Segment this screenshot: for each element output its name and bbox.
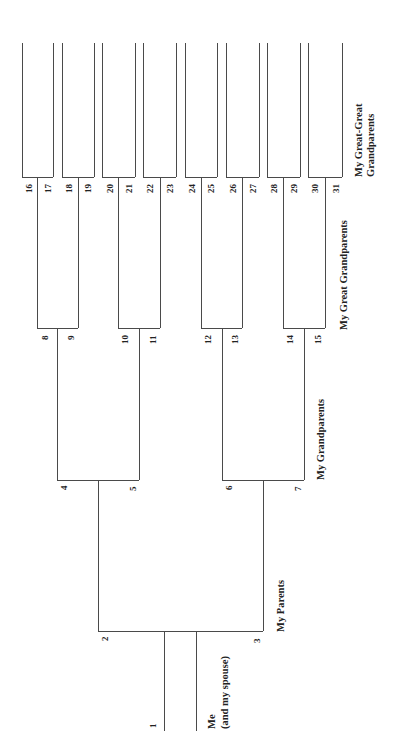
node-number-19: 19 — [83, 184, 93, 194]
node-number-29: 29 — [289, 184, 299, 194]
node-number-18: 18 — [64, 184, 74, 194]
node-number-23: 23 — [165, 184, 175, 194]
node-number-24: 24 — [187, 184, 197, 194]
grandparents-branch: 4 5 6 7 My Grandparents — [57, 328, 326, 491]
node-number-26: 26 — [228, 184, 238, 194]
node-number-8: 8 — [40, 335, 50, 340]
node-number-1: 1 — [148, 723, 158, 728]
node-number-10: 10 — [120, 335, 130, 345]
node-number-30: 30 — [310, 184, 320, 194]
me-label: Me — [206, 714, 217, 729]
node-number-15: 15 — [313, 335, 323, 345]
node-number-5: 5 — [128, 486, 138, 491]
node-number-3: 3 — [252, 638, 262, 643]
node-number-21: 21 — [124, 184, 134, 194]
node-number-9: 9 — [66, 335, 76, 340]
node-number-6: 6 — [224, 485, 234, 490]
node-number-25: 25 — [206, 184, 216, 194]
node-number-11: 11 — [148, 335, 158, 344]
family-tree-chart: 1 Me (and my spouse) 2 3 My Parents 4 5 … — [0, 0, 393, 744]
great-grandparents-branch: 8 9 10 11 12 13 14 15 My Great Grandpare… — [37, 177, 349, 344]
root-me-branch: 1 Me (and my spouse) — [148, 631, 231, 731]
node-number-2: 2 — [100, 636, 110, 641]
node-number-27: 27 — [248, 184, 258, 194]
node-number-17: 17 — [43, 184, 53, 194]
great-great-grandparents-label-line1: My Great-Great — [353, 103, 364, 177]
great-great-grandparents-branch: 16 17 18 19 20 21 22 23 24 25 26 27 28 2… — [22, 43, 376, 193]
node-number-14: 14 — [285, 335, 295, 345]
node-number-22: 22 — [145, 184, 155, 194]
node-number-31: 31 — [331, 184, 341, 194]
node-number-7: 7 — [293, 486, 303, 491]
great-grandparents-generation-label: My Great Grandparents — [338, 220, 349, 330]
node-number-16: 16 — [24, 184, 34, 194]
node-number-13: 13 — [230, 335, 240, 345]
great-great-grandparents-label-line2: Grandparents — [365, 114, 376, 177]
grandparents-generation-label: My Grandparents — [315, 399, 326, 480]
node-number-28: 28 — [269, 184, 279, 194]
spouse-label: (and my spouse) — [219, 656, 231, 729]
parents-branch: 2 3 My Parents — [98, 480, 286, 643]
node-number-4: 4 — [59, 485, 69, 490]
node-number-20: 20 — [105, 184, 115, 194]
node-number-12: 12 — [203, 335, 213, 345]
parents-generation-label: My Parents — [275, 580, 286, 632]
